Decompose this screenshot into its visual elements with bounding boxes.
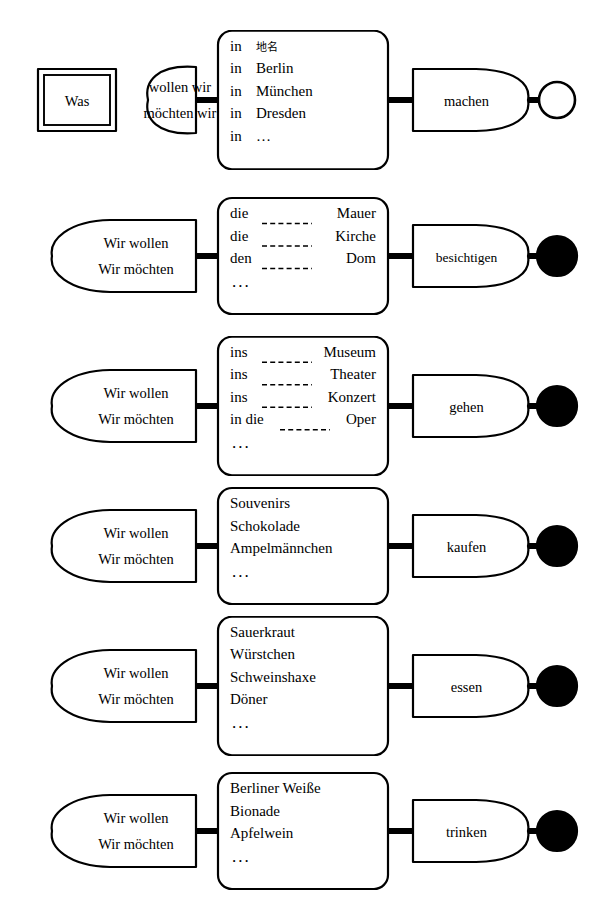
- options-ellipsis: ...: [232, 272, 251, 291]
- options-ellipsis: ...: [232, 847, 251, 866]
- option-prefix: in: [230, 105, 242, 121]
- verb-node-label: kaufen: [447, 539, 487, 555]
- subject-node-line: möchten wir: [144, 105, 217, 121]
- diagram-row: Wir wollenWir möchtenSauerkrautWürstchen…: [0, 616, 611, 756]
- options-ellipsis: ...: [232, 713, 251, 732]
- option-prefix: Apfelwein: [230, 825, 294, 841]
- subject-node-line: wollen wir: [149, 79, 212, 95]
- option-prefix: ins: [230, 366, 248, 382]
- option-suffix: München: [256, 83, 313, 99]
- option-prefix: die: [230, 228, 249, 244]
- subject-node-line: Wir möchten: [98, 691, 174, 707]
- sentence-network-diagram: Waswollen wirmöchten wirin地名inBerlininMü…: [0, 0, 611, 919]
- option-prefix: in: [230, 38, 242, 54]
- verb-node-label: machen: [444, 93, 490, 109]
- start-node-label: Was: [65, 93, 90, 109]
- subject-node-shape: [52, 220, 196, 292]
- subject-node-line: Wir wollen: [103, 385, 169, 401]
- option-prefix: Würstchen: [230, 646, 295, 662]
- subject-node-shape: [52, 510, 196, 582]
- option-prefix: Schweinshaxe: [230, 669, 316, 685]
- subject-node-line: Wir möchten: [98, 411, 174, 427]
- option-prefix: die: [230, 205, 249, 221]
- diagram-row: Wir wollenWir möchtenSouvenirsSchokolade…: [0, 486, 611, 606]
- diagram-row: Wir wollenWir möchtendieMauerdieKirchede…: [0, 196, 611, 316]
- terminal-node-filled: [537, 666, 577, 706]
- option-prefix: ins: [230, 389, 248, 405]
- diagram-row: Wir wollenWir möchtenBerliner WeißeBiona…: [0, 766, 611, 896]
- option-suffix: Dom: [346, 250, 376, 266]
- options-ellipsis: ...: [232, 433, 251, 452]
- options-ellipsis: ...: [232, 562, 251, 581]
- option-prefix: in: [230, 83, 242, 99]
- option-prefix: Bionade: [230, 803, 280, 819]
- terminal-node-hollow: [539, 82, 575, 118]
- subject-node-shape: [147, 67, 196, 134]
- option-suffix: Museum: [324, 344, 377, 360]
- option-suffix-cjk: 地名: [256, 40, 278, 54]
- option-prefix: in: [230, 128, 242, 144]
- subject-node-line: Wir wollen: [103, 235, 169, 251]
- verb-node-label: essen: [451, 679, 483, 695]
- subject-node-shape: [52, 795, 196, 867]
- subject-node-shape: [52, 650, 196, 722]
- terminal-node-filled: [537, 811, 577, 851]
- option-prefix: den: [230, 250, 252, 266]
- subject-node-line: Wir möchten: [98, 551, 174, 567]
- option-prefix: in: [230, 60, 242, 76]
- subject-node-shape: [52, 370, 196, 442]
- option-suffix: …: [256, 128, 271, 144]
- verb-node-label: besichtigen: [436, 250, 498, 265]
- option-prefix: Sauerkraut: [230, 624, 296, 640]
- option-prefix: Schokolade: [230, 518, 300, 534]
- option-suffix: Konzert: [328, 389, 377, 405]
- subject-node-line: Wir wollen: [103, 810, 169, 826]
- subject-node-line: Wir möchten: [98, 836, 174, 852]
- terminal-node-filled: [537, 386, 577, 426]
- option-prefix: Döner: [230, 691, 268, 707]
- option-suffix: Theater: [330, 366, 376, 382]
- option-prefix: Souvenirs: [230, 495, 290, 511]
- subject-node-line: Wir wollen: [103, 525, 169, 541]
- option-suffix: Dresden: [256, 105, 306, 121]
- option-suffix: Kirche: [335, 228, 376, 244]
- diagram-row: Wir wollenWir möchteninsMuseuminsTheater…: [0, 336, 611, 476]
- option-prefix: Ampelmännchen: [230, 540, 333, 556]
- option-suffix: Mauer: [337, 205, 376, 221]
- subject-node-line: Wir wollen: [103, 665, 169, 681]
- options-box: [218, 31, 388, 170]
- diagram-row: Waswollen wirmöchten wirin地名inBerlininMü…: [0, 30, 611, 170]
- terminal-node-filled: [537, 236, 577, 276]
- verb-node-label: gehen: [449, 399, 484, 415]
- verb-node-label: trinken: [446, 824, 488, 840]
- subject-node-line: Wir möchten: [98, 261, 174, 277]
- option-suffix: Oper: [346, 411, 376, 427]
- terminal-node-filled: [537, 526, 577, 566]
- option-prefix: ins: [230, 344, 248, 360]
- option-prefix: in die: [230, 411, 264, 427]
- option-prefix: Berliner Weiße: [230, 780, 321, 796]
- option-suffix: Berlin: [256, 60, 294, 76]
